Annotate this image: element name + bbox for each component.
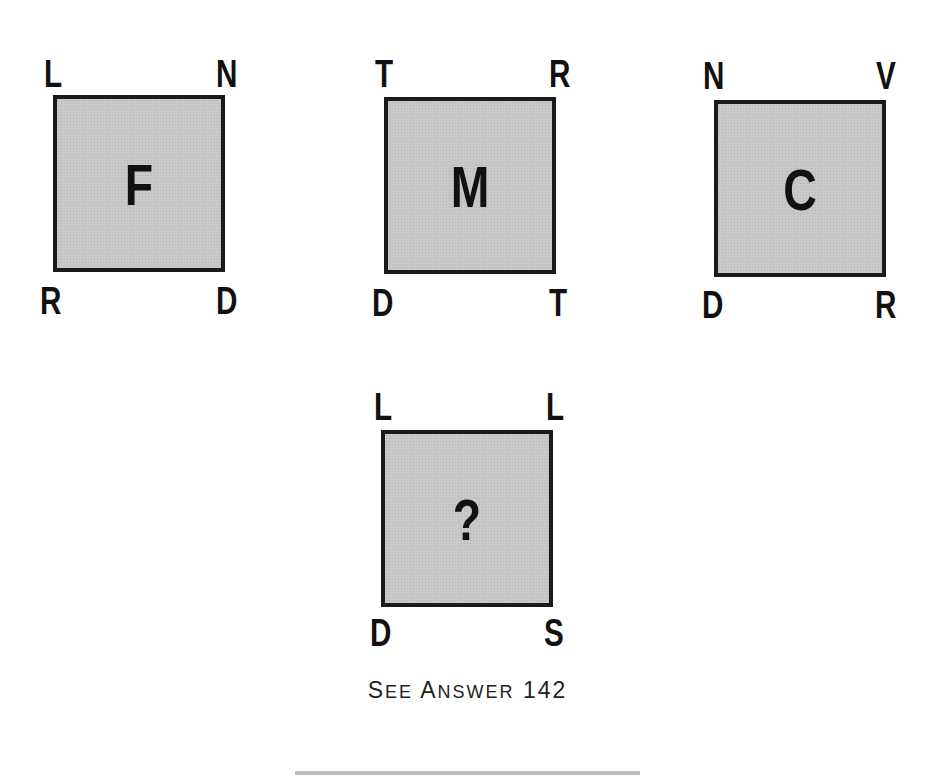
caption-smallcaps: EE bbox=[385, 682, 413, 702]
corner-letter: T bbox=[549, 284, 567, 322]
corner-letter: D bbox=[370, 614, 391, 652]
corner-letter: R bbox=[875, 286, 896, 324]
question-mark: ? bbox=[401, 485, 532, 552]
corner-letter: V bbox=[876, 57, 896, 95]
answer-reference: SEE ANSWER 142 bbox=[0, 677, 935, 704]
corner-letter: L bbox=[374, 388, 392, 426]
corner-letter: L bbox=[546, 388, 564, 426]
center-letter: C bbox=[734, 155, 865, 222]
corner-letter: N bbox=[216, 55, 237, 93]
square-box: F bbox=[53, 95, 225, 272]
caption-initial: S bbox=[368, 677, 385, 703]
corner-letter: T bbox=[375, 55, 393, 93]
square-box: M bbox=[384, 97, 556, 274]
square-box: ? bbox=[381, 430, 553, 607]
corner-letter: N bbox=[703, 57, 724, 95]
corner-letter: S bbox=[544, 614, 564, 652]
corner-letter: D bbox=[372, 284, 393, 322]
caption-smallcaps: NSWER bbox=[438, 682, 515, 702]
bottom-rule bbox=[295, 771, 640, 775]
answer-number: 142 bbox=[523, 677, 567, 703]
center-letter: F bbox=[73, 150, 204, 217]
square-box: C bbox=[714, 100, 886, 277]
corner-letter: L bbox=[44, 55, 62, 93]
caption-initial: A bbox=[420, 677, 437, 703]
corner-letter: R bbox=[549, 55, 570, 93]
center-letter: M bbox=[404, 152, 535, 219]
corner-letter: R bbox=[40, 282, 61, 320]
corner-letter: D bbox=[702, 286, 723, 324]
corner-letter: D bbox=[216, 282, 237, 320]
